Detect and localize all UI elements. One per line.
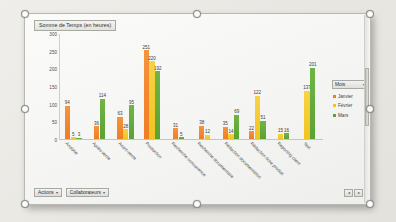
category-label: Analyse xyxy=(65,141,80,156)
x-axis-line xyxy=(59,139,323,140)
bar-fill xyxy=(278,134,283,139)
bar-value-label: 36 xyxy=(94,121,99,126)
legend-field-button[interactable]: Mois ▾ xyxy=(332,80,368,89)
bar-value-label: 12 xyxy=(205,129,210,134)
y-axis-tick: 200 xyxy=(49,67,57,72)
y-axis-tick: 250 xyxy=(49,49,57,54)
bar-value-label: 192 xyxy=(154,66,162,71)
bar-value-label: 28 xyxy=(123,124,128,129)
pivot-chart-object[interactable]: Somme de Temps (en heures) 0501001502002… xyxy=(24,13,371,205)
bar[interactable]: 51 xyxy=(260,121,265,139)
legend-item-label: Février xyxy=(338,103,352,108)
bar-fill xyxy=(249,131,254,139)
bar[interactable]: 122 xyxy=(255,96,260,139)
scroll-left-button[interactable]: ◂ xyxy=(344,189,353,197)
bar[interactable]: 35 xyxy=(223,127,228,139)
bar-value-label: 3 xyxy=(78,132,81,137)
bar-group: 3812 xyxy=(191,34,217,139)
y-axis-tick: 100 xyxy=(49,102,57,107)
chart-canvas: Somme de Temps (en heures) 0501001502002… xyxy=(25,14,370,204)
bar[interactable]: 15 xyxy=(278,134,283,139)
bar-fill xyxy=(234,115,239,139)
bar-fill xyxy=(94,126,99,139)
bar-group: 9453 xyxy=(60,34,86,139)
legend-item-label: Mars xyxy=(338,113,348,118)
bar[interactable]: 192 xyxy=(155,71,160,139)
y-axis-tick: 150 xyxy=(49,85,57,90)
bar-fill xyxy=(199,126,204,139)
chart-title[interactable]: Somme de Temps (en heures) xyxy=(34,20,116,31)
bar[interactable]: 95 xyxy=(129,105,134,139)
resize-handle-w[interactable] xyxy=(21,105,29,113)
legend-color-swatch xyxy=(333,104,336,107)
legend-color-swatch xyxy=(333,114,336,117)
resize-handle-e[interactable] xyxy=(366,105,374,113)
y-axis-tick: 0 xyxy=(54,138,57,143)
bar[interactable]: 14 xyxy=(228,134,233,139)
actions-label: Actions xyxy=(38,190,54,195)
bar[interactable]: 31 xyxy=(173,128,178,139)
bar[interactable]: 22 xyxy=(249,131,254,139)
scroll-right-button[interactable]: ▸ xyxy=(354,189,363,197)
bar-value-label: 94 xyxy=(65,100,70,105)
bar[interactable]: 137 xyxy=(304,91,309,139)
bar[interactable]: 28 xyxy=(123,129,128,139)
category-label: Reporting client xyxy=(276,141,301,166)
bar-fill xyxy=(179,137,184,139)
bar-fill xyxy=(129,105,134,139)
bar[interactable]: 16 xyxy=(284,133,289,139)
bar-group: 251220192 xyxy=(139,34,165,139)
bar[interactable]: 5 xyxy=(179,137,184,139)
bar[interactable]: 94 xyxy=(65,106,70,139)
bar-fill xyxy=(100,99,105,139)
bar-value-label: 201 xyxy=(309,62,317,67)
bar[interactable]: 63 xyxy=(117,117,122,139)
bar[interactable]: 201 xyxy=(310,68,315,139)
bar-value-label: 35 xyxy=(223,121,228,126)
bar-group: 2212251 xyxy=(244,34,270,139)
actions-field-button[interactable]: Actions ▾ xyxy=(34,188,62,197)
bar-fill xyxy=(255,96,260,139)
bar-fill xyxy=(155,71,160,139)
corner-scroll-buttons: ◂ ▸ xyxy=(344,189,363,197)
bar[interactable]: 251 xyxy=(144,50,149,139)
resize-handle-sw[interactable] xyxy=(21,200,29,208)
resize-handle-se[interactable] xyxy=(366,200,374,208)
bar-groups: 9453361146328952512201923153812351469221… xyxy=(60,34,323,139)
resize-handle-n[interactable] xyxy=(193,10,201,18)
bar[interactable]: 220 xyxy=(149,61,154,139)
bar[interactable]: 69 xyxy=(234,115,239,139)
bar[interactable]: 12 xyxy=(205,135,210,139)
legend-item: Février xyxy=(332,103,368,108)
bar-fill xyxy=(71,137,76,139)
bar-fill xyxy=(260,121,265,139)
bar[interactable]: 3 xyxy=(76,138,81,139)
bar-value-label: 14 xyxy=(228,129,233,134)
resize-handle-s[interactable] xyxy=(193,200,201,208)
bar[interactable]: 38 xyxy=(199,126,204,139)
bar-fill xyxy=(310,68,315,139)
bar-value-label: 38 xyxy=(199,120,204,125)
field-buttons: Actions ▾ Collaborateurs ▾ xyxy=(34,188,109,197)
bar[interactable]: 5 xyxy=(71,137,76,139)
y-axis-tick: 50 xyxy=(52,120,57,125)
bar[interactable]: 114 xyxy=(100,99,105,139)
bar[interactable]: 36 xyxy=(94,126,99,139)
legend-item: Janvier xyxy=(332,94,368,99)
collaborateurs-field-button[interactable]: Collaborateurs ▾ xyxy=(66,188,109,197)
bar-group: 137201 xyxy=(297,34,323,139)
resize-handle-ne[interactable] xyxy=(366,10,374,18)
bar-fill xyxy=(65,106,70,139)
bar-fill xyxy=(149,61,154,139)
category-label: Production xyxy=(144,141,162,159)
scrollbar-thumb[interactable] xyxy=(365,68,369,126)
screenshot-root: Somme de Temps (en heures) 0501001502002… xyxy=(0,0,396,222)
resize-handle-nw[interactable] xyxy=(21,10,29,18)
bar-fill xyxy=(205,135,210,139)
bar-value-label: 31 xyxy=(173,123,178,128)
bar-value-label: 5 xyxy=(180,132,183,137)
legend-color-swatch xyxy=(333,95,336,98)
category-label: Test xyxy=(303,141,312,150)
bar-group: 1516 xyxy=(270,34,296,139)
bar-fill xyxy=(284,133,289,139)
